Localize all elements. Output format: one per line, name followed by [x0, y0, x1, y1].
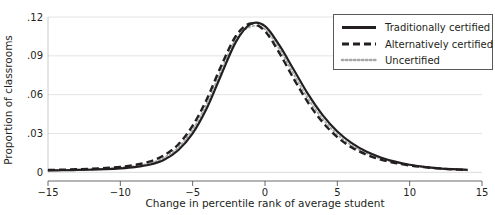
x-tick-label: −10 — [110, 187, 131, 198]
x-tick-label: 15 — [476, 187, 489, 198]
x-tick-label: 10 — [403, 187, 416, 198]
y-tick-label: 0 — [37, 167, 43, 178]
y-tick-label: .06 — [27, 89, 43, 100]
legend-label: Uncertified — [385, 55, 440, 66]
distribution-line-chart: 0.03.06.09.12 −15−10−5051015 Proportion … — [0, 0, 495, 215]
y-axis-title: Proportion of classrooms — [2, 35, 14, 165]
y-tick-label: .09 — [27, 50, 43, 61]
x-axis-title: Change in percentile rank of average stu… — [145, 197, 384, 209]
y-tick-label: .03 — [27, 128, 43, 139]
legend-label: Traditionally certified — [384, 22, 490, 33]
chart-figure: 0.03.06.09.12 −15−10−5051015 Proportion … — [0, 0, 495, 215]
y-tick-label: .12 — [27, 12, 43, 23]
legend-label: Alternatively certified — [385, 39, 493, 50]
x-tick-label: −15 — [37, 187, 58, 198]
chart-legend: Traditionally certifiedAlternatively cer… — [334, 15, 494, 70]
